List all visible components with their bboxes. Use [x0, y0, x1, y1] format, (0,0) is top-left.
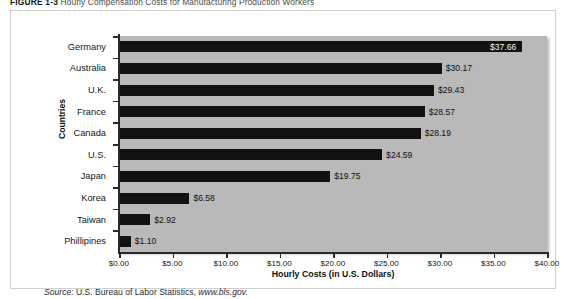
category-label-uk: U.K.: [88, 85, 106, 95]
x-tick-label: $25.00: [374, 259, 399, 268]
bar-canada: [119, 128, 421, 139]
x-tick: [440, 252, 442, 258]
bar-value-label: $29.43: [438, 85, 464, 95]
x-tick: [119, 252, 121, 258]
bar-australia: [119, 63, 442, 74]
category-label-germany: Germany: [68, 42, 106, 52]
bar-value-label: $37.66: [490, 42, 516, 52]
category-label-japan: Japan: [81, 171, 106, 181]
bars-layer: $37.66$30.17$29.43$28.57$28.19$24.59$19.…: [119, 36, 547, 252]
x-tick: [387, 252, 389, 258]
x-tick: [333, 252, 335, 258]
bar-phillipines: [119, 236, 131, 247]
y-tick: [113, 187, 119, 189]
source-text: U.S. Bureau of Labor Statistics,: [74, 287, 199, 297]
category-labels: GermanyAustraliaU.K.FranceCanadaU.S.Japa…: [22, 36, 114, 252]
x-tick-label: $10.00: [214, 259, 239, 268]
bar-chart: $37.66$30.17$29.43$28.57$28.19$24.59$19.…: [22, 22, 552, 280]
bar-value-label: $28.19: [425, 128, 451, 138]
figure-caption: FIGURE 1-3 Hourly Compensation Costs for…: [10, 0, 314, 7]
x-tick: [547, 252, 549, 258]
x-tick-label: $0.00: [109, 259, 129, 268]
y-tick: [113, 122, 119, 124]
bar-value-label: $6.58: [193, 193, 215, 203]
x-tick: [173, 252, 175, 258]
bar-value-label: $28.57: [429, 107, 455, 117]
source-url: www.bls.gov.: [198, 287, 248, 297]
x-tick-label: $20.00: [321, 259, 346, 268]
x-tick-label: $5.00: [162, 259, 182, 268]
x-tick-label: $15.00: [267, 259, 292, 268]
y-tick: [113, 230, 119, 232]
x-tick-label: $35.00: [481, 259, 506, 268]
x-tick: [226, 252, 228, 258]
y-tick: [113, 144, 119, 146]
y-tick: [113, 166, 119, 168]
y-tick: [113, 36, 119, 38]
bar-germany: [119, 41, 522, 52]
x-tick: [280, 252, 282, 258]
y-tick: [113, 79, 119, 81]
bar-value-label: $30.17: [446, 63, 472, 73]
bar-france: [119, 106, 425, 117]
category-label-canada: Canada: [73, 128, 106, 138]
x-tick-label: $30.00: [428, 259, 453, 268]
figure-number: FIGURE 1-3: [10, 0, 58, 7]
x-tick: [494, 252, 496, 258]
bar-value-label: $1.10: [135, 236, 157, 246]
bar-japan: [119, 171, 330, 182]
figure-container: FIGURE 1-3 Hourly Compensation Costs for…: [0, 0, 566, 299]
category-label-france: France: [77, 107, 106, 117]
x-axis-title: Hourly Costs (in U.S. Dollars): [119, 269, 547, 279]
x-tick-label: $40.00: [535, 259, 560, 268]
bar-value-label: $19.75: [334, 171, 360, 181]
figure-title: Hourly Compensation Costs for Manufactur…: [61, 0, 315, 7]
y-tick: [113, 209, 119, 211]
plot-area: $37.66$30.17$29.43$28.57$28.19$24.59$19.…: [119, 36, 547, 252]
source-note: Source: U.S. Bureau of Labor Statistics,…: [44, 287, 248, 297]
source-label: Source:: [44, 287, 74, 297]
figure-frame: $37.66$30.17$29.43$28.57$28.19$24.59$19.…: [10, 10, 556, 289]
category-label-korea: Korea: [81, 193, 106, 203]
y-tick: [113, 101, 119, 103]
bar-uk: [119, 85, 434, 96]
category-label-taiwan: Taiwan: [77, 215, 106, 225]
bar-korea: [119, 193, 189, 204]
bar-taiwan: [119, 214, 150, 225]
bar-value-label: $24.59: [386, 150, 412, 160]
category-label-phillipines: Phillipines: [64, 236, 106, 246]
y-tick: [113, 58, 119, 60]
bar-us: [119, 149, 382, 160]
category-label-us: U.S.: [88, 150, 106, 160]
bar-value-label: $2.92: [154, 215, 176, 225]
category-label-australia: Australia: [70, 63, 106, 73]
